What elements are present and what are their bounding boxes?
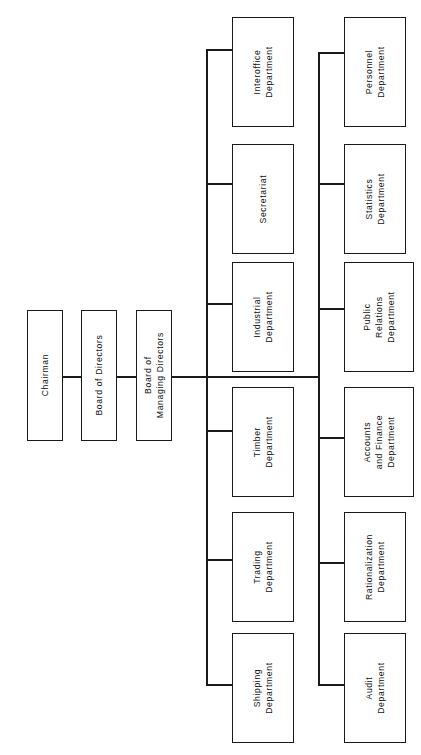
- trading-line-2: Department: [264, 541, 274, 592]
- node-statistics-department-label: Statistics Department: [363, 173, 387, 224]
- timber-line-1: Timber: [252, 427, 262, 457]
- node-board-of-directors[interactable]: Board of Directors: [81, 310, 117, 441]
- node-timber-department-label: Timber Department: [251, 416, 275, 467]
- upper-stub-timber: [206, 430, 232, 432]
- node-board-of-directors-label: Board of Directors: [93, 335, 105, 416]
- upper-stub-interoffice: [206, 49, 232, 51]
- node-shipping-department-label: Shipping Department: [251, 662, 275, 713]
- node-chairman[interactable]: Chairman: [27, 310, 63, 441]
- bmd-line-1: Board of: [143, 357, 153, 395]
- node-industrial-department[interactable]: Industrial Department: [232, 262, 294, 372]
- node-trading-department[interactable]: Trading Department: [232, 512, 294, 622]
- node-interoffice-department[interactable]: Interoffice Department: [232, 17, 294, 127]
- node-personnel-department-label: Personnel Department: [363, 46, 387, 97]
- accounts-line-2: and Finance: [374, 415, 384, 469]
- bmd-line-2: Managing Directors: [155, 332, 165, 418]
- public-relations-line-2: Relations: [374, 296, 384, 338]
- personnel-line-2: Department: [376, 46, 386, 97]
- statistics-line-1: Statistics: [364, 179, 374, 220]
- public-relations-line-3: Department: [386, 291, 396, 342]
- audit-line-1: Audit: [364, 677, 374, 700]
- shipping-line-2: Department: [264, 662, 274, 713]
- node-interoffice-department-label: Interoffice Department: [251, 46, 275, 97]
- upper-stub-shipping: [206, 684, 232, 686]
- trading-line-1: Trading: [252, 550, 262, 583]
- audit-line-2: Department: [376, 662, 386, 713]
- lower-stub-personnel: [318, 52, 344, 54]
- node-secretariat[interactable]: Secretariat: [232, 144, 294, 254]
- node-secretariat-label: Secretariat: [257, 175, 269, 224]
- interoffice-line-1: Interoffice: [252, 50, 262, 95]
- interoffice-line-2: Department: [264, 46, 274, 97]
- industrial-line-1: Industrial: [252, 296, 262, 337]
- node-audit-department[interactable]: Audit Department: [344, 633, 406, 743]
- node-shipping-department[interactable]: Shipping Department: [232, 633, 294, 743]
- node-personnel-department[interactable]: Personnel Department: [344, 17, 406, 127]
- personnel-line-1: Personnel: [364, 50, 374, 95]
- accounts-line-3: Department: [386, 416, 396, 467]
- upper-stub-secretariat: [206, 183, 232, 185]
- node-statistics-department[interactable]: Statistics Department: [344, 144, 406, 254]
- industrial-line-2: Department: [264, 291, 274, 342]
- node-accounts-finance-department-label: Accounts and Finance Department: [361, 415, 397, 469]
- lower-stub-rationalization: [318, 562, 344, 564]
- node-timber-department[interactable]: Timber Department: [232, 387, 294, 497]
- lower-stub-public-relations: [318, 308, 344, 310]
- upper-stub-trading: [206, 559, 232, 561]
- lower-stub-statistics: [318, 183, 344, 185]
- main-trunk-line: [172, 376, 319, 378]
- node-audit-department-label: Audit Department: [363, 662, 387, 713]
- lower-stub-accounts-finance: [318, 437, 344, 439]
- node-public-relations-department[interactable]: Public Relations Department: [344, 262, 414, 372]
- public-relations-line-1: Public: [362, 303, 372, 330]
- node-board-of-managing-directors[interactable]: Board of Managing Directors: [136, 310, 172, 441]
- upper-branch-bus: [206, 49, 208, 377]
- node-public-relations-department-label: Public Relations Department: [361, 291, 397, 342]
- timber-line-2: Department: [264, 416, 274, 467]
- lower-branch-bus: [318, 52, 320, 685]
- node-chairman-label: Chairman: [39, 354, 51, 396]
- accounts-line-1: Accounts: [362, 422, 372, 463]
- lower-stub-audit: [318, 684, 344, 686]
- node-rationalization-department[interactable]: Rationalization Department: [344, 512, 406, 622]
- upper-branch-bus-lower: [206, 376, 208, 685]
- node-trading-department-label: Trading Department: [251, 541, 275, 592]
- node-industrial-department-label: Industrial Department: [251, 291, 275, 342]
- rationalization-line-2: Department: [376, 541, 386, 592]
- node-board-of-managing-directors-label: Board of Managing Directors: [142, 332, 166, 418]
- statistics-line-2: Department: [376, 173, 386, 224]
- org-chart: Chairman Board of Directors Board of Man…: [0, 0, 421, 755]
- upper-stub-industrial: [206, 303, 232, 305]
- shipping-line-1: Shipping: [252, 669, 262, 708]
- rationalization-line-1: Rationalization: [364, 534, 374, 600]
- node-accounts-finance-department[interactable]: Accounts and Finance Department: [344, 387, 414, 497]
- node-rationalization-department-label: Rationalization Department: [363, 534, 387, 600]
